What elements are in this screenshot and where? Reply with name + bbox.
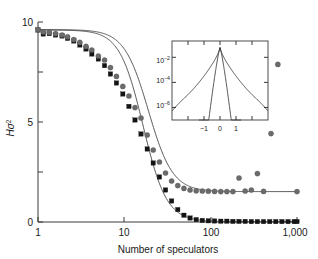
data-point-square: [200, 218, 204, 222]
y-tick-marks: [38, 22, 43, 222]
x-tick-label-1: 1: [35, 227, 41, 238]
chart-figure: 10 5 0 1 10 100 1,000 Number of speculat…: [0, 0, 318, 259]
data-point-square: [169, 199, 173, 203]
data-point-circle: [212, 189, 217, 194]
svg-text:10−4: 10−4: [156, 75, 170, 84]
data-point-circle: [65, 34, 70, 39]
data-point-circle: [255, 171, 260, 176]
x-tick-label-100: 100: [203, 227, 220, 238]
data-point-square: [295, 219, 299, 223]
data-point-square: [249, 219, 253, 223]
data-point-circle: [77, 40, 82, 45]
inset-y-tick-label-1e-2: 10−2: [156, 55, 170, 64]
data-point-square: [212, 219, 216, 223]
data-point-circle: [96, 53, 101, 58]
data-point-circle: [71, 37, 76, 42]
data-point-circle: [157, 159, 162, 164]
inset-frame: [172, 41, 268, 120]
chart-svg: 10 5 0 1 10 100 1,000 Number of speculat…: [0, 0, 318, 259]
data-point-square: [127, 104, 131, 108]
data-point-square: [139, 132, 143, 136]
data-point-square: [237, 219, 241, 223]
data-point-circle: [249, 187, 254, 192]
data-point-circle: [275, 62, 280, 67]
inset-plot: 10−2 10−4 10−6 −1 0 1: [156, 41, 268, 132]
data-point-circle: [230, 189, 235, 194]
data-point-square: [151, 161, 155, 165]
data-point-circle: [175, 183, 180, 188]
data-point-square: [255, 219, 259, 223]
data-point-square: [206, 219, 210, 223]
data-point-circle: [138, 115, 143, 120]
data-point-square: [274, 219, 278, 223]
data-point-square: [108, 72, 112, 76]
data-point-circle: [224, 189, 229, 194]
data-point-square: [157, 175, 161, 179]
svg-text:10−2: 10−2: [156, 55, 170, 64]
data-point-square: [121, 92, 125, 96]
data-point-square: [268, 219, 272, 223]
data-point-circle: [126, 93, 131, 98]
inset-y-tick-label-1e-4: 10−4: [156, 75, 170, 84]
data-point-circle: [47, 30, 52, 35]
data-point-square: [280, 219, 284, 223]
data-point-circle: [236, 175, 241, 180]
data-point-square: [261, 219, 265, 223]
data-point-circle: [194, 188, 199, 193]
data-point-square: [231, 219, 235, 223]
x-tick-label-1000: 1,000: [282, 227, 307, 238]
data-point-circle: [89, 47, 94, 52]
x-tick-label-10: 10: [118, 227, 130, 238]
svg-text:Hσ2: Hσ2: [5, 119, 16, 136]
data-point-square: [145, 147, 149, 151]
data-point-circle: [200, 188, 205, 193]
data-point-square: [286, 219, 290, 223]
data-point-circle: [108, 65, 113, 70]
data-point-square: [182, 213, 186, 217]
data-point-square: [163, 188, 167, 192]
data-point-circle: [163, 170, 168, 175]
data-point-square: [102, 63, 106, 67]
inset-y-tick-label-1e-6: 10−6: [156, 100, 170, 109]
data-point-circle: [59, 32, 64, 37]
data-point-circle: [132, 105, 137, 110]
data-point-circle: [187, 187, 192, 192]
y-axis-title: Hσ2: [5, 119, 16, 136]
data-point-circle: [268, 131, 273, 136]
y-tick-label-5: 5: [27, 117, 33, 128]
data-point-circle: [102, 57, 107, 62]
y-tick-label-10: 10: [22, 17, 34, 28]
x-axis-title: Number of speculators: [118, 244, 219, 255]
data-point-square: [188, 216, 192, 220]
data-point-square: [114, 81, 118, 85]
data-point-square: [225, 219, 229, 223]
data-point-circle: [151, 147, 156, 152]
data-point-square: [243, 219, 247, 223]
data-point-square: [133, 118, 137, 122]
data-point-circle: [41, 29, 46, 34]
data-point-circle: [218, 189, 223, 194]
inset-x-tick-label-1: 1: [234, 125, 238, 132]
data-point-circle: [145, 132, 150, 137]
data-point-square: [176, 207, 180, 211]
data-point-circle: [83, 44, 88, 49]
inset-x-tick-label-0: 0: [218, 125, 222, 132]
y-axis-title-text: Hσ: [5, 122, 16, 136]
data-point-circle: [35, 27, 40, 32]
svg-text:10−6: 10−6: [156, 100, 170, 109]
data-point-circle: [169, 178, 174, 183]
y-tick-label-0: 0: [27, 217, 33, 228]
data-point-circle: [294, 189, 299, 194]
data-point-circle: [206, 189, 211, 194]
data-point-circle: [181, 186, 186, 191]
data-point-circle: [53, 31, 58, 36]
data-point-circle: [120, 84, 125, 89]
data-point-square: [219, 219, 223, 223]
data-point-circle: [261, 189, 266, 194]
data-point-circle: [243, 188, 248, 193]
inset-x-tick-label-neg1: −1: [200, 125, 208, 132]
data-point-square: [194, 217, 198, 221]
data-point-circle: [114, 74, 119, 79]
